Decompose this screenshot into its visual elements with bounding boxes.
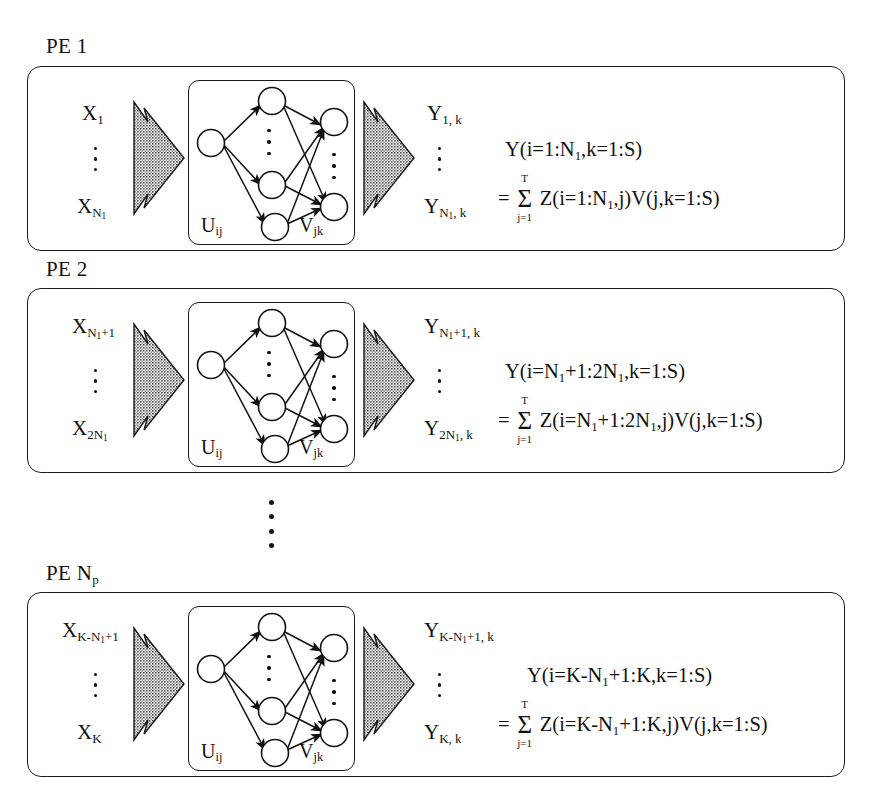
pe-panel-2-formula-line-2: = T Σ j=1 Z(i=N1+1:2N1,j)V(j,k=1:S) <box>498 408 763 433</box>
pe-panel-1-input-ellipsis <box>93 147 98 171</box>
pe-panel-2-network-box: Uij Vjk <box>188 302 355 467</box>
pe-panel-3-input-arrow-icon <box>128 624 186 744</box>
pe-panel-2-input-arrow-icon <box>128 320 186 440</box>
pe-panel-1-summation-icon: T Σ j=1 <box>515 186 535 211</box>
pe-panel-1-formula-line-2: = T Σ j=1 Z(i=1:N1,j)V(j,k=1:S) <box>498 186 720 211</box>
pe-panel-1-input-arrow-icon <box>128 98 186 218</box>
pe-panel-1-network-box: Uij Vjk <box>188 80 355 245</box>
pe-panel-3-title: PE Np <box>46 563 99 586</box>
pe-panel-2-output-bottom-label: Y2N1, k <box>424 418 473 439</box>
pe-panel-3-output-arrow-icon <box>358 624 416 744</box>
pe-panel-2-weights-v-label: Vjk <box>299 437 323 457</box>
pe-panel-1-weights-u-label: Uij <box>201 215 222 235</box>
pe-panel-3-output-ellipsis <box>331 679 337 705</box>
pe-panel-2-input-top-label: XN1+1 <box>72 316 115 337</box>
pe-panel-3-weights-v-label: Vjk <box>299 741 323 761</box>
pe-panel-2-hidden-ellipsis <box>266 351 272 377</box>
panels-continuation-ellipsis <box>268 500 274 548</box>
pe-panel-3-input-bottom-label: XK <box>77 722 102 743</box>
pe-panel-1-input-bottom-label: XN1 <box>77 196 106 217</box>
pe-panel-3-weights-u-label: Uij <box>201 741 222 761</box>
pe-panel-3-output-top-label: YK-N1+1, k <box>424 620 494 641</box>
pe-panel-1-output-top-label: Y1, k <box>427 103 462 124</box>
pe-panel-1-formula-line-1: Y(i=1:N1,k=1:S) <box>505 139 642 160</box>
pe-panel-2-weights-u-label: Uij <box>201 437 222 457</box>
pe-panel-1-output-bottom-label: YN1, k <box>424 196 466 217</box>
pe-panel-1-weights-v-label: Vjk <box>299 215 323 235</box>
pe-panel-3-output-ellipsis-label <box>437 673 442 697</box>
diagram-canvas: PE 1 X1 XN1 <box>0 0 877 799</box>
pe-panel-3-network-box: Uij Vjk <box>188 606 355 771</box>
pe-panel-3-input-top-label: XK-N1+1 <box>62 620 119 641</box>
pe-panel-2-output-ellipsis-label <box>437 369 442 393</box>
pe-panel-3-formula-line-1: Y(i=K-N1+1:K,k=1:S) <box>527 665 712 686</box>
pe-panel-3-title-sub: p <box>92 572 99 587</box>
pe-panel-1-title: PE 1 <box>46 36 87 59</box>
pe-panel-1-output-ellipsis <box>331 153 337 179</box>
pe-panel-1-input-top-label: X1 <box>82 103 104 124</box>
pe-panel-3-input-ellipsis <box>93 673 98 697</box>
pe-panel-2-title: PE 2 <box>46 259 87 282</box>
pe-panel-1-output-ellipsis-label <box>437 147 442 171</box>
pe-panel-2-output-ellipsis <box>331 375 337 401</box>
pe-panel-3-hidden-ellipsis <box>266 655 272 681</box>
pe-panel-2-input-ellipsis <box>93 369 98 393</box>
pe-panel-2-formula-line-1: Y(i=N1+1:2N1,k=1:S) <box>505 361 685 382</box>
pe-panel-3-output-bottom-label: YK, k <box>424 722 462 743</box>
pe-panel-1-output-arrow-icon <box>358 98 416 218</box>
pe-panel-1-hidden-ellipsis <box>266 129 272 155</box>
pe-panel-3-summation-icon: T Σ j=1 <box>515 712 535 737</box>
pe-panel-2-input-bottom-label: X2N1 <box>72 418 108 439</box>
pe-panel-2-output-arrow-icon <box>358 320 416 440</box>
pe-panel-2-output-top-label: YN1+1, k <box>424 316 480 337</box>
pe-panel-3-formula-line-2: = T Σ j=1 Z(i=K-N1+1:K,j)V(j,k=1:S) <box>498 712 768 737</box>
pe-panel-2-summation-icon: T Σ j=1 <box>515 408 535 433</box>
